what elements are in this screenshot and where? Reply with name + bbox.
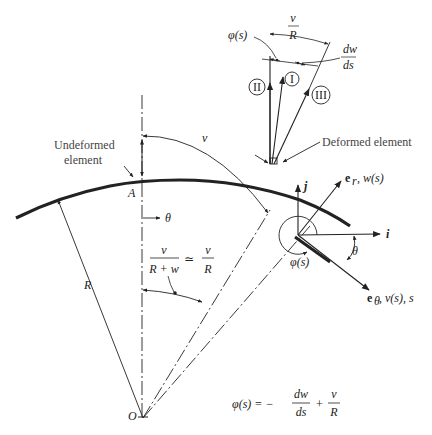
- theta-angle-label: θ: [352, 244, 358, 258]
- i-axis: [298, 234, 380, 235]
- radius-label: R: [83, 278, 92, 292]
- point-a-label: A: [127, 186, 136, 200]
- v-arc-label: v: [202, 131, 208, 145]
- vector-III: [274, 89, 309, 164]
- equation: φ(s) = − dw ds + v R: [232, 387, 340, 419]
- circle-II-label: II: [253, 80, 261, 94]
- radius-line: [58, 200, 143, 418]
- deformed-label: Deformed element: [322, 135, 412, 149]
- eq-plus: +: [316, 397, 323, 411]
- approx-sign: ≃: [184, 252, 194, 266]
- deformed-leader: [283, 142, 320, 162]
- centerline-radial-2: [143, 226, 310, 418]
- vector-I: [272, 77, 283, 164]
- circle-I-label: I: [290, 72, 294, 86]
- phi-angle-label: φ(s): [290, 255, 309, 269]
- beam-arc: [16, 180, 350, 226]
- circle-III-label: III: [315, 88, 327, 102]
- j-label: j: [302, 179, 308, 193]
- vR-den: R: [288, 28, 297, 42]
- etheta-label: e: [367, 291, 373, 305]
- centerline-radial: [143, 210, 270, 418]
- er-rest: , w(s): [357, 171, 384, 185]
- phi-top-label: φ(s): [228, 28, 247, 42]
- origin-label: O: [128, 409, 137, 423]
- undeformed-label-2: element: [64, 153, 103, 167]
- undeformed-label-1: Undeformed: [54, 138, 115, 152]
- theta-label: θ: [165, 211, 171, 225]
- ratio2-num: v: [205, 243, 211, 257]
- eq-frac1-num: dw: [294, 387, 308, 401]
- curved-beam-deformation-diagram: R O A Undeformed element v θ v R + w ≃ v…: [0, 0, 432, 435]
- dwds-den: ds: [343, 58, 354, 72]
- ratio2-den: R: [203, 262, 212, 276]
- undeformed-leader: [124, 166, 133, 177]
- equation-lhs: φ(s) = −: [232, 397, 274, 411]
- er-label: e: [345, 171, 351, 185]
- dwds-num: dw: [343, 42, 357, 56]
- eq-frac2-den: R: [329, 405, 338, 419]
- eq-frac1-den: ds: [296, 405, 307, 419]
- etheta-rest: , v(s), s: [379, 291, 414, 305]
- i-label: i: [386, 227, 390, 241]
- v-arc: [143, 136, 268, 213]
- vR-num: v: [290, 11, 296, 25]
- eq-frac2-num: v: [331, 387, 337, 401]
- ratio-num: v: [161, 243, 167, 257]
- ratio-den: R + w: [148, 262, 178, 276]
- angle-arc: [143, 290, 202, 302]
